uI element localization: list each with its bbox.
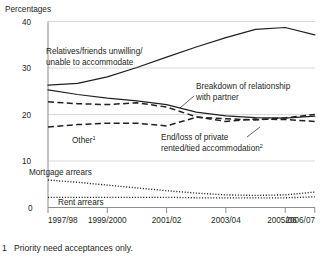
- annotation-endloss-line1: End/loss of private: [161, 133, 229, 142]
- line-chart: Percentages 40 30 20 10 0: [0, 0, 321, 260]
- annotation-breakdown-leader: [180, 96, 194, 108]
- x-tick-label-1999: 1999/2000: [88, 216, 127, 225]
- x-tick-label-2001: 2001/02: [152, 216, 182, 225]
- annotation-breakdown-relationship: Breakdown of relationship with partner: [180, 82, 291, 108]
- annotation-breakdown-line1: Breakdown of relationship: [196, 82, 291, 91]
- footnote-1: 1 Priority need acceptances only.: [2, 243, 133, 253]
- x-axis-ticks: [48, 208, 315, 214]
- x-axis-tick-labels: 1997/98 1999/2000 2001/02 2003/04 2005/0…: [48, 216, 315, 225]
- series-mortgage-arrears: [48, 180, 315, 195]
- annotation-endloss-line2: rented/tied accommodation2: [161, 143, 263, 154]
- annotation-mortgage-arrears: Mortgage arrears: [29, 168, 92, 177]
- annotation-breakdown-line2: with partner: [195, 93, 239, 102]
- annotation-rent-arrears: Rent arrears: [58, 198, 104, 207]
- y-tick-label-10: 10: [22, 157, 32, 166]
- annotation-other: Other1: [72, 135, 96, 146]
- y-tick-label-30: 30: [22, 64, 32, 73]
- annotation-other-label: Other1: [72, 135, 96, 146]
- x-tick-label-1997: 1997/98: [48, 216, 78, 225]
- series-relatives-friends: [48, 28, 315, 86]
- annotation-endloss-leader: [247, 127, 260, 137]
- footnote-1-text: Priority need acceptances only.: [14, 243, 133, 253]
- y-tick-label-40: 40: [22, 18, 32, 27]
- x-tick-label-2006: 2006/07: [285, 216, 315, 225]
- footnote-1-marker: 1: [2, 243, 7, 253]
- chart-container: Percentages 40 30 20 10 0: [0, 0, 321, 260]
- annotation-relatives-line2: unable to accommodate: [46, 58, 134, 67]
- y-tick-label-0: 0: [28, 204, 33, 213]
- annotation-relatives-line1: Relatives/friends unwilling/: [46, 47, 143, 56]
- annotation-end-loss-private: End/loss of private rented/tied accommod…: [161, 127, 263, 153]
- y-tick-label-20: 20: [22, 111, 32, 120]
- series-other: [48, 115, 315, 127]
- x-tick-label-2003: 2003/04: [211, 216, 241, 225]
- annotation-relatives-friends: Relatives/friends unwilling/ unable to a…: [46, 47, 143, 67]
- y-axis-ticks: 40 30 20 10 0: [22, 18, 33, 213]
- y-axis-unit-label: Percentages: [5, 5, 51, 14]
